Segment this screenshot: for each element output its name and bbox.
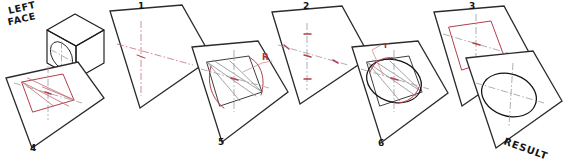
panel-step-4: 4 <box>6 62 104 153</box>
panel-step-6: r 6 <box>352 40 448 148</box>
cube-top-face <box>47 14 104 46</box>
panel-step-5: R 5 <box>192 41 288 147</box>
step1-caption: 1 <box>138 1 145 11</box>
step3-caption: 3 <box>469 1 476 11</box>
isometric-construction-diagram: LEFT FACE 4 1 <box>0 0 580 161</box>
left-face-label: LEFT FACE <box>4 0 39 27</box>
step2-caption: 2 <box>303 1 310 11</box>
step6-plane <box>352 41 448 142</box>
step5-radius-label: R <box>262 52 269 62</box>
result-label-text: RESULT <box>502 136 549 161</box>
figure-canvas: LEFT FACE 4 1 <box>0 0 580 161</box>
step4-caption: 4 <box>30 143 37 153</box>
step5-caption: 5 <box>218 137 225 147</box>
panel-result: RESULT <box>466 51 562 161</box>
step6-caption: 6 <box>378 138 385 148</box>
step4-plane <box>6 62 104 148</box>
step5-plane <box>192 41 288 142</box>
result-plane <box>466 51 562 148</box>
result-label: RESULT <box>502 136 549 161</box>
